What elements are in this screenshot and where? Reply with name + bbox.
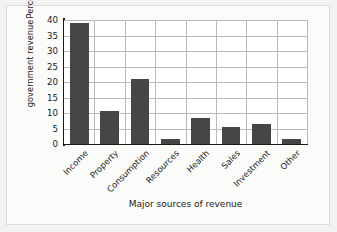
x-tick-label-sales: Sales <box>219 148 242 171</box>
bar-sales <box>222 127 241 144</box>
y-tick-label: 30 <box>47 47 58 56</box>
x-axis-tick-labels: IncomePropertyConsumptionResourcesHealth… <box>64 146 307 198</box>
y-tick-label: 15 <box>47 93 58 102</box>
bar-consumption <box>131 79 150 144</box>
y-tick-label: 20 <box>47 78 58 87</box>
bar-income <box>70 23 89 144</box>
x-tick-label-other: Other <box>279 148 303 172</box>
bar-other <box>282 139 301 144</box>
bar-cell <box>277 20 307 144</box>
y-tick-label: 40 <box>47 16 58 25</box>
y-tick-label: 10 <box>47 109 58 118</box>
bar-cell <box>64 20 94 144</box>
x-tick-label-health: Health <box>185 148 212 175</box>
x-tick-label-income: Income <box>61 148 90 177</box>
bar-series <box>64 20 307 144</box>
x-axis-title: Major sources of revenue <box>64 199 307 210</box>
bar-health <box>191 118 210 144</box>
bar-resources <box>161 139 180 144</box>
gridline-vertical <box>307 20 308 144</box>
y-tick-label: 0 <box>53 140 58 149</box>
bar-cell <box>186 20 216 144</box>
bar-investment <box>252 124 271 144</box>
plot-area <box>64 20 307 144</box>
bar-cell <box>155 20 185 144</box>
bar-cell <box>216 20 246 144</box>
bar-property <box>100 111 119 144</box>
y-tick-label: 5 <box>53 124 58 133</box>
bar-cell <box>125 20 155 144</box>
bar-cell <box>94 20 124 144</box>
y-tick-label: 35 <box>47 31 58 40</box>
y-axis-tick-labels: 0510152025303540 <box>0 0 62 164</box>
bar-cell <box>246 20 276 144</box>
y-tick-label: 25 <box>47 62 58 71</box>
bar-chart-figure: Percentage of government revenue 0510152… <box>0 0 337 232</box>
